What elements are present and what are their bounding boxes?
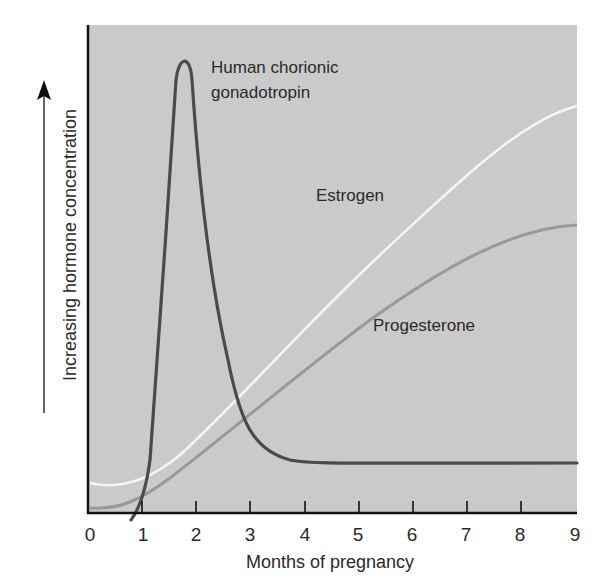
progesterone-label: Progesterone	[373, 316, 475, 335]
plot-area	[88, 25, 577, 513]
tick-label-3: 3	[245, 524, 256, 545]
x-axis-title: Months of pregnancy	[246, 552, 414, 572]
tick-label-7: 7	[461, 524, 472, 545]
tick-label-6: 6	[407, 524, 418, 545]
tick-label-8: 8	[515, 524, 526, 545]
tick-label-5: 5	[353, 524, 364, 545]
hcg-label-line2: gonadotropin	[211, 83, 310, 102]
y-axis-title: Increasing hormone concentration	[60, 109, 80, 381]
x-tick-labels: 0 1 2 3 4 5 6 7 8 9	[85, 524, 581, 545]
tick-label-1: 1	[138, 524, 149, 545]
tick-label-0: 0	[85, 524, 96, 545]
tick-label-2: 2	[191, 524, 202, 545]
tick-label-9: 9	[570, 524, 581, 545]
estrogen-label: Estrogen	[316, 186, 384, 205]
tick-label-4: 4	[300, 524, 311, 545]
hcg-label-line1: Human chorionic	[211, 58, 339, 77]
hormone-chart: 0 1 2 3 4 5 6 7 8 9 Months of pregnancy …	[0, 0, 610, 586]
